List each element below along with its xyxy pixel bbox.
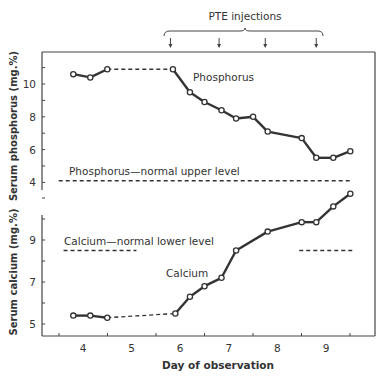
series-segment <box>236 232 268 251</box>
series-segment <box>222 251 237 278</box>
series-segment <box>175 297 190 314</box>
series-label-phosphorus: Phosphorus <box>193 71 254 83</box>
data-point <box>348 149 353 154</box>
data-point <box>314 155 319 160</box>
y-tick-label: 9 <box>29 234 36 246</box>
x-tick-label: 6 <box>177 342 184 354</box>
y-tick-label: 7 <box>29 276 36 288</box>
data-point <box>251 114 256 119</box>
data-point <box>265 229 270 234</box>
x-tick-label: 5 <box>128 342 135 354</box>
x-tick-label: 8 <box>274 342 281 354</box>
axes: 45678946810579 <box>23 68 350 354</box>
series-segment <box>268 222 302 231</box>
x-tick-label: 7 <box>225 342 232 354</box>
pte-injections-annotation <box>164 28 323 48</box>
data-point <box>105 67 110 72</box>
data-point <box>331 204 336 209</box>
data-point <box>233 248 238 253</box>
arrow-head-icon <box>217 44 221 48</box>
data-point <box>71 313 76 318</box>
ref-label-calcium: Calcium—normal lower level <box>64 235 214 247</box>
plot-frame <box>42 52 375 336</box>
data-point <box>299 220 304 225</box>
x-tick-label: 4 <box>80 342 87 354</box>
data-point <box>219 275 224 280</box>
data-point <box>219 108 224 113</box>
y-tick-label: 8 <box>29 111 36 123</box>
y-tick-label: 6 <box>29 144 36 156</box>
y-tick-label: 4 <box>29 176 36 188</box>
series-segment <box>173 69 190 92</box>
series-label-calcium: Calcium <box>166 267 208 279</box>
data-series <box>71 67 353 321</box>
data-point <box>202 99 207 104</box>
arrow-head-icon <box>314 44 318 48</box>
arrow-head-icon <box>168 44 172 48</box>
pte-label: PTE injections <box>208 10 281 22</box>
data-point <box>187 294 192 299</box>
x-tick-label: 9 <box>323 342 330 354</box>
data-point <box>331 155 336 160</box>
ref-label-phosphorus: Phosphorus—normal upper level <box>69 165 240 177</box>
series-segment <box>316 206 333 222</box>
data-point <box>265 129 270 134</box>
data-point <box>233 116 238 121</box>
series-segment <box>268 132 302 139</box>
data-point <box>202 284 207 289</box>
series-segment <box>107 314 175 318</box>
x-axis-label: Day of observation <box>162 359 274 371</box>
data-point <box>71 72 76 77</box>
data-point <box>105 315 110 320</box>
series-segment <box>302 138 317 158</box>
data-point <box>173 311 178 316</box>
data-point <box>314 220 319 225</box>
brace <box>164 28 323 36</box>
chart: 45678946810579 PTE injections Day of obs… <box>0 0 390 382</box>
data-point <box>88 313 93 318</box>
y-tick-label: 10 <box>23 78 36 90</box>
data-point <box>170 67 175 72</box>
data-point <box>187 90 192 95</box>
y-axis-label-calcium: Serum calcium (mg.%) <box>8 209 19 336</box>
data-point <box>88 75 93 80</box>
arrow-head-icon <box>263 44 267 48</box>
data-point <box>299 136 304 141</box>
y-axis-label-phosphorus: Serum phosphorus (mg.%) <box>8 51 19 201</box>
y-tick-label: 5 <box>29 318 36 330</box>
data-point <box>348 191 353 196</box>
